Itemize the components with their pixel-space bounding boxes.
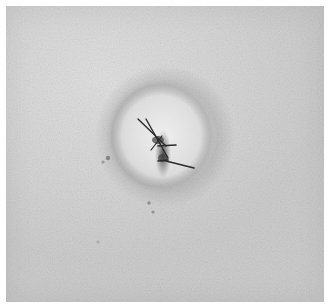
- skin-photograph: [6, 6, 324, 302]
- skin-spot: [101, 160, 104, 163]
- wound-illustration: [6, 6, 324, 302]
- suture-thread-4: [158, 145, 176, 146]
- suture-thread-6: [158, 160, 168, 161]
- skin-spot: [96, 240, 99, 243]
- skin-spot: [147, 201, 151, 205]
- skin-spot: [106, 156, 110, 160]
- skin-spot: [151, 210, 154, 213]
